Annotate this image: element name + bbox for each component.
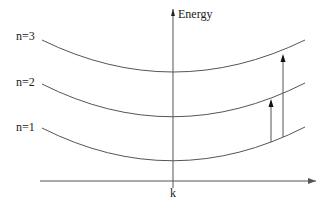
transition-n1-n2-arrow-icon [269,99,274,107]
y-axis-label: Energy [178,7,212,21]
band-label-n1: n=1 [16,120,35,134]
x-axis-label: k [170,186,176,200]
band-label-n3: n=3 [16,29,35,43]
band-label-n2: n=2 [16,75,35,89]
transition-n1-n3-arrow-icon [281,54,286,62]
energy-axis-arrow-icon [171,9,175,16]
band-diagram: n=3 n=2 n=1 Energy k [0,0,326,210]
